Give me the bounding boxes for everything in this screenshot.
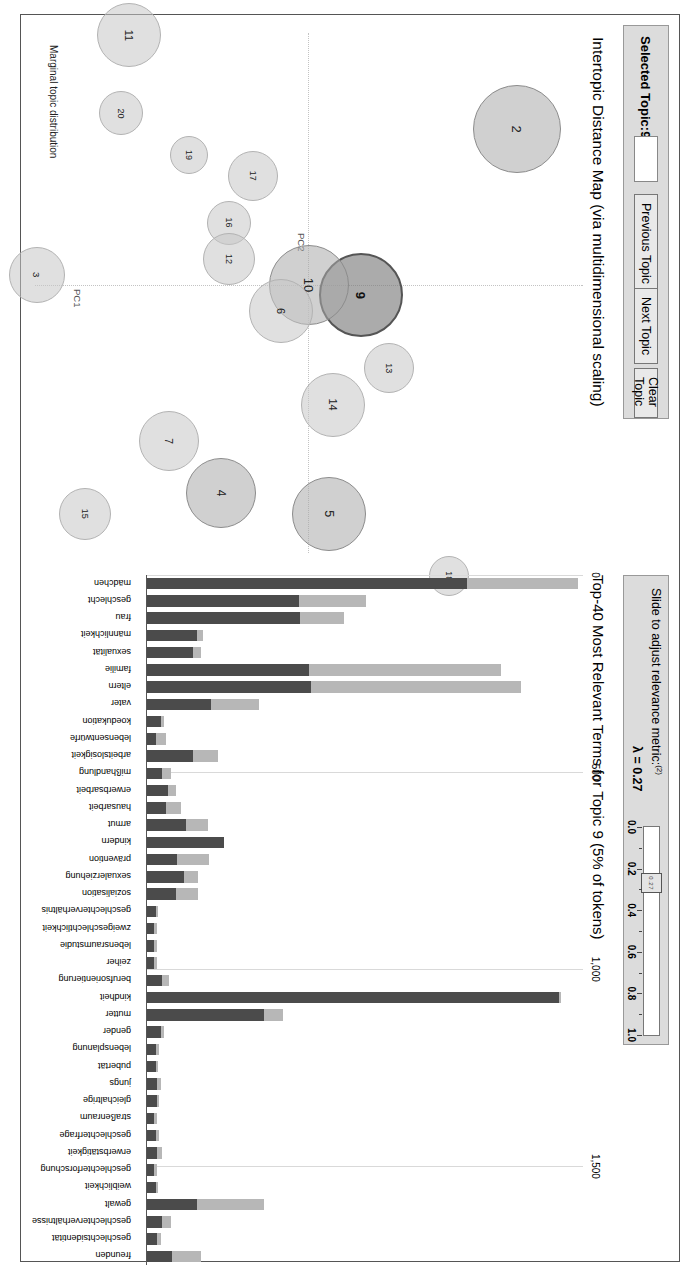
topic-bubble-7[interactable]: 7: [139, 411, 199, 471]
topic-bubble-17[interactable]: 17: [228, 151, 278, 201]
term-bar[interactable]: [147, 1130, 583, 1142]
term-bar[interactable]: [147, 578, 583, 590]
term-label[interactable]: frau: [115, 612, 131, 622]
term-label[interactable]: geschlechterverhältnisse: [32, 1216, 131, 1226]
term-label[interactable]: straßenraum: [80, 1112, 131, 1122]
term-label[interactable]: freunden: [95, 1250, 131, 1260]
topic-bubble-13[interactable]: 13: [364, 343, 414, 393]
term-label[interactable]: prävention: [89, 854, 131, 864]
term-label[interactable]: armut: [108, 819, 131, 829]
term-label[interactable]: gender: [103, 1026, 131, 1036]
topic-bubble-14[interactable]: 14: [301, 373, 365, 437]
term-bar[interactable]: [147, 1216, 583, 1228]
term-bar[interactable]: [147, 733, 583, 745]
term-label[interactable]: erwerbsarbeit: [76, 785, 131, 795]
term-bar[interactable]: [147, 750, 583, 762]
term-label[interactable]: geschlechterforschung: [40, 1164, 131, 1174]
topic-bubble-3[interactable]: 3: [9, 247, 65, 303]
term-label[interactable]: mutter: [105, 1009, 131, 1019]
term-label[interactable]: eltern: [108, 681, 131, 691]
term-bar[interactable]: [147, 630, 583, 642]
previous-topic-button[interactable]: Previous Topic: [634, 194, 658, 293]
term-bar[interactable]: [147, 1113, 583, 1125]
term-label[interactable]: geschlechterfrage: [59, 1130, 131, 1140]
term-bar[interactable]: [147, 888, 583, 900]
term-bar[interactable]: [147, 1095, 583, 1107]
term-label[interactable]: kindheit: [100, 992, 131, 1002]
term-label[interactable]: kindern: [101, 836, 131, 846]
term-bar[interactable]: [147, 699, 583, 711]
term-label[interactable]: jungs: [109, 1078, 131, 1088]
term-label[interactable]: lebensentwürfe: [70, 733, 131, 743]
term-bar[interactable]: [147, 871, 583, 883]
term-bar[interactable]: [147, 854, 583, 866]
relevance-slider[interactable]: 0.27 0.00.20.40.60.81.0: [628, 826, 662, 1036]
topic-bubble-11[interactable]: 11: [97, 3, 161, 67]
term-bar[interactable]: [147, 664, 583, 676]
topic-bubble-15[interactable]: 15: [59, 488, 111, 540]
term-label[interactable]: vater: [111, 698, 131, 708]
term-label[interactable]: gewalt: [105, 1199, 131, 1209]
term-label[interactable]: geschlechtsidentität: [52, 1233, 131, 1243]
term-bar[interactable]: [147, 1182, 583, 1194]
topic-number-input[interactable]: [634, 136, 658, 182]
term-bar[interactable]: [147, 906, 583, 918]
term-label[interactable]: geschlecht: [88, 595, 131, 605]
term-bar[interactable]: [147, 647, 583, 659]
term-bar[interactable]: [147, 1078, 583, 1090]
topic-bubble-2[interactable]: 2: [473, 85, 561, 173]
term-label[interactable]: lebensraumstudie: [60, 940, 131, 950]
slider-handle[interactable]: 0.27: [641, 873, 662, 893]
term-bar[interactable]: [147, 595, 583, 607]
topic-bubble-6[interactable]: 6: [249, 279, 313, 343]
term-label[interactable]: erwerbstätigkeit: [68, 1147, 131, 1157]
term-bar[interactable]: [147, 1044, 583, 1056]
clear-topic-button[interactable]: Clear Topic: [634, 368, 658, 418]
term-label[interactable]: koedukation: [82, 716, 131, 726]
term-label[interactable]: arbeitslosigkeit: [71, 750, 131, 760]
term-bar[interactable]: [147, 1061, 583, 1073]
term-bar[interactable]: [147, 681, 583, 693]
term-bar[interactable]: [147, 923, 583, 935]
topic-bubble-4[interactable]: 4: [186, 458, 256, 528]
term-label[interactable]: geschlechterverhältnis: [41, 905, 131, 915]
term-label[interactable]: mißhandlung: [79, 767, 131, 777]
term-label[interactable]: zeiher: [106, 957, 131, 967]
term-label[interactable]: familie: [105, 664, 131, 674]
term-label[interactable]: sexualerziehung: [65, 871, 131, 881]
term-bar[interactable]: [147, 1164, 583, 1176]
term-bar[interactable]: [147, 785, 583, 797]
term-label[interactable]: berufsorientierung: [58, 974, 131, 984]
topic-bubble-20[interactable]: 20: [99, 91, 143, 135]
term-label[interactable]: pubertät: [98, 1061, 131, 1071]
term-bar[interactable]: [147, 1147, 583, 1159]
term-label[interactable]: sozialisation: [82, 888, 131, 898]
term-label[interactable]: lebensplanung: [72, 1043, 131, 1053]
slider-track[interactable]: [643, 826, 660, 1036]
term-bar[interactable]: [147, 1233, 583, 1245]
term-label[interactable]: sexualität: [93, 647, 131, 657]
term-bar[interactable]: [147, 975, 583, 987]
term-bar[interactable]: [147, 940, 583, 952]
term-label[interactable]: männlichkeit: [81, 629, 131, 639]
term-label[interactable]: weiblichkeit: [85, 1181, 131, 1191]
term-label[interactable]: gleichaltrige: [83, 1095, 131, 1105]
topic-bubble-19[interactable]: 19: [170, 136, 208, 174]
term-bar[interactable]: [147, 819, 583, 831]
next-topic-button[interactable]: Next Topic: [634, 288, 658, 364]
term-bar[interactable]: [147, 1251, 583, 1263]
term-bar[interactable]: [147, 992, 583, 1004]
term-bar[interactable]: [147, 1009, 583, 1021]
intertopic-distance-map[interactable]: PC1 PC2 Marginal topic distribution 2139…: [35, 33, 583, 553]
topic-bubble-5[interactable]: 5: [292, 477, 366, 551]
term-bar[interactable]: [147, 1026, 583, 1038]
term-label[interactable]: mädchen: [94, 578, 131, 588]
term-bar[interactable]: [147, 716, 583, 728]
term-bar[interactable]: [147, 768, 583, 780]
term-label[interactable]: zweigeschlechtlichkeit: [42, 923, 131, 933]
term-barchart[interactable]: 05001,0001,500 mädchengeschlechtfraumänn…: [35, 575, 583, 1265]
topic-bubble-12[interactable]: 12: [203, 233, 255, 285]
term-bar[interactable]: [147, 837, 583, 849]
term-bar[interactable]: [147, 802, 583, 814]
term-label[interactable]: hausarbeit: [89, 802, 131, 812]
